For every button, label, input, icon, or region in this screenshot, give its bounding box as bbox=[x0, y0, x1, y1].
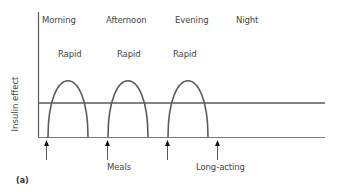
rapid-curve-evening bbox=[168, 81, 208, 137]
rapid-curve-afternoon bbox=[108, 81, 148, 137]
period-label-night: Night bbox=[236, 15, 258, 25]
rapid-label-morning: Rapid bbox=[58, 49, 82, 59]
period-label-afternoon: Afternoon bbox=[106, 15, 147, 25]
insulin-effect-plot bbox=[0, 0, 340, 192]
y-axis-label: Insulin effect bbox=[10, 77, 20, 132]
long-acting-label: Long-acting bbox=[196, 162, 245, 172]
arrow-long-acting bbox=[215, 140, 220, 160]
panel-label: (a) bbox=[16, 176, 29, 185]
rapid-label-afternoon: Rapid bbox=[117, 49, 141, 59]
meals-label: Meals bbox=[107, 162, 131, 172]
insulin-regimen-diagram: Morning Afternoon Evening Night Rapid Ra… bbox=[0, 0, 340, 192]
rapid-curve-morning bbox=[48, 81, 88, 137]
rapid-label-evening: Rapid bbox=[173, 49, 197, 59]
period-label-evening: Evening bbox=[175, 15, 208, 25]
arrow-meal-afternoon bbox=[105, 140, 110, 160]
arrow-meal-morning bbox=[44, 140, 49, 160]
period-label-morning: Morning bbox=[42, 15, 76, 25]
arrow-meal-evening bbox=[165, 140, 170, 160]
